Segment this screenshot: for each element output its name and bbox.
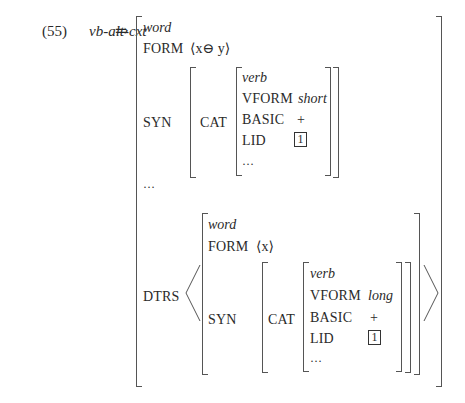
dtrs-lid-label: LID — [310, 332, 334, 346]
form-label: FORM — [143, 42, 183, 56]
lid-tag-box: 1 — [294, 132, 307, 147]
dtrs-basic-value: + — [370, 311, 378, 325]
dtrs-cat-label: CAT — [268, 313, 295, 327]
cat-ellipsis: … — [242, 155, 254, 167]
dtrs-label: DTRS — [143, 290, 180, 304]
dtrs-lid-tag-box: 1 — [368, 330, 381, 345]
dtrs-vform-label: VFORM — [310, 289, 361, 303]
cat-type: verb — [242, 71, 267, 85]
vform-label: VFORM — [242, 92, 293, 106]
cat-label: CAT — [200, 116, 227, 130]
dtrs-word-right-bracket — [414, 213, 420, 375]
right-angle-bracket — [423, 265, 439, 321]
avm-ellipsis: … — [143, 178, 155, 190]
syn-label: SYN — [143, 116, 172, 130]
outer-right-bracket — [436, 16, 442, 387]
dtrs-vform-value: long — [368, 289, 393, 303]
dtrs-cat-right-bracket — [396, 262, 402, 372]
outer-left-bracket — [136, 16, 142, 387]
syn-left-bracket — [190, 67, 196, 178]
dtrs-form-label: FORM — [208, 240, 248, 254]
dtrs-cat-type: verb — [310, 267, 335, 281]
syn-right-bracket — [333, 67, 339, 178]
lid-label: LID — [242, 134, 266, 148]
vform-value: short — [298, 92, 327, 106]
dtrs-cat-left-bracket — [303, 262, 309, 372]
cat-right-bracket — [325, 67, 331, 176]
implies-arrow: ⇒ — [115, 23, 128, 39]
basic-label: BASIC — [242, 113, 284, 127]
dtrs-syn-right-bracket — [405, 262, 411, 373]
left-angle-bracket — [185, 265, 201, 321]
dtrs-word-left-bracket — [202, 213, 208, 375]
dtrs-form-value: ⟨x⟩ — [256, 240, 274, 254]
dtrs-cat-ellipsis: … — [310, 352, 322, 364]
form-value: ⟨x⊖ y⟩ — [190, 42, 230, 56]
dtrs-syn-label: SYN — [208, 313, 237, 327]
dtrs-basic-label: BASIC — [310, 311, 352, 325]
dtrs-word-type: word — [208, 218, 236, 232]
example-number: (55) — [42, 24, 67, 39]
basic-value: + — [297, 113, 305, 127]
avm-type: word — [143, 21, 171, 35]
